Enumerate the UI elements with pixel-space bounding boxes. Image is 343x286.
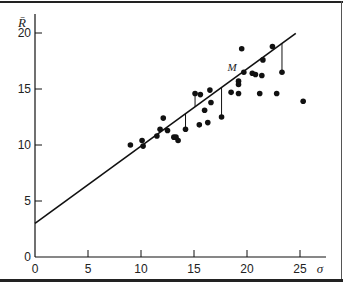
data-point <box>205 120 211 126</box>
data-point <box>257 91 263 97</box>
data-point <box>219 114 225 120</box>
residual-lines <box>186 43 282 129</box>
data-point <box>139 138 145 144</box>
data-point <box>198 92 204 98</box>
data-point <box>183 127 189 133</box>
x-tick-label: 15 <box>187 262 201 276</box>
annotations: M <box>227 61 238 73</box>
y-tick-label: 10 <box>18 138 32 152</box>
data-point <box>140 143 146 149</box>
data-point <box>279 69 285 75</box>
data-point <box>128 142 134 148</box>
data-point <box>270 44 276 50</box>
annotation-label: M <box>227 61 238 73</box>
data-point <box>202 107 208 113</box>
data-point <box>197 122 203 128</box>
x-tick-label: 20 <box>240 262 254 276</box>
data-point <box>300 99 306 105</box>
x-tick-label: 0 <box>32 262 39 276</box>
data-point <box>253 72 259 78</box>
data-point <box>157 127 163 133</box>
fit-line <box>35 33 296 223</box>
data-point <box>260 57 266 63</box>
x-axis-title: σ <box>317 261 324 276</box>
data-point <box>165 128 171 134</box>
data-point <box>160 115 166 121</box>
data-point <box>239 46 245 52</box>
data-point <box>208 100 214 106</box>
regression-line <box>35 33 296 223</box>
data-point <box>236 91 242 97</box>
y-axis-title: R̄ <box>17 15 26 30</box>
data-point <box>207 87 213 93</box>
y-tick-label: 0 <box>24 250 31 264</box>
data-points <box>128 44 306 149</box>
x-tick-label: 25 <box>293 262 307 276</box>
data-point <box>274 91 280 97</box>
data-point <box>175 138 181 144</box>
y-tick-label: 15 <box>18 82 32 96</box>
data-point <box>241 69 247 75</box>
data-point <box>228 90 234 96</box>
scatter-chart: 051015202505101520σR̄ M <box>0 0 343 286</box>
y-tick-label: 5 <box>24 194 31 208</box>
x-tick-label: 5 <box>85 262 92 276</box>
axes: 051015202505101520σR̄ <box>17 14 326 276</box>
data-point <box>192 91 198 97</box>
data-point <box>154 133 160 139</box>
x-tick-label: 10 <box>134 262 148 276</box>
data-point <box>236 82 242 88</box>
data-point <box>259 73 265 79</box>
